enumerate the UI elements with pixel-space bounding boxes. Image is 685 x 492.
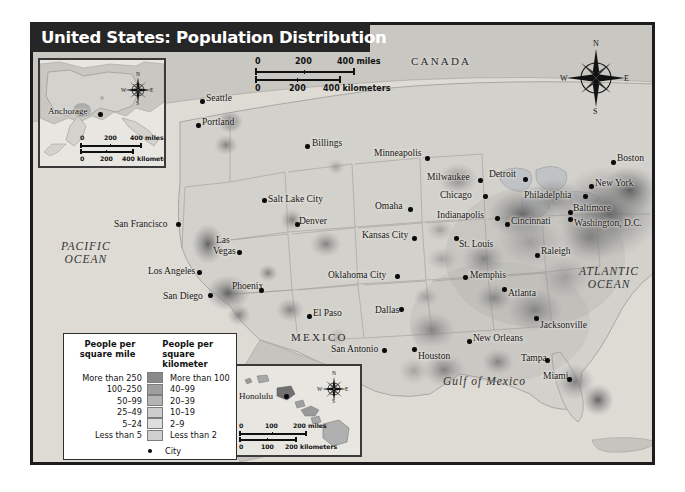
legend-km-value: 40–99 — [163, 384, 195, 394]
city-dot — [208, 293, 213, 298]
city-dot — [568, 217, 573, 222]
hawaii-compass-s: S — [332, 398, 335, 404]
city-label: Billings — [312, 138, 342, 148]
city-label: Los Angeles — [148, 266, 195, 276]
city-dot — [535, 253, 540, 258]
city-label: Detroit — [489, 169, 516, 179]
city-dot — [262, 198, 267, 203]
legend-row: 5–242–9 — [64, 418, 236, 430]
city-dot — [568, 210, 573, 215]
city-label: Indianapolis — [437, 210, 484, 220]
city-dot — [502, 287, 507, 292]
main-scale-bar: 0 200 400 miles 0 200 400 kilometers — [255, 57, 385, 95]
city-label: Oklahoma City — [328, 270, 386, 280]
city-dot — [197, 270, 202, 275]
city-dot-icon — [148, 449, 152, 453]
city-dot — [305, 144, 310, 149]
alaska-compass-rose: N E S W — [122, 74, 154, 106]
city-dot — [408, 207, 413, 212]
alaska-scale-km-line — [80, 149, 156, 154]
legend-km-value: 10–19 — [163, 407, 195, 417]
city-dot — [583, 194, 588, 199]
hawaii-compass-rose: N E S W — [319, 374, 349, 404]
city-dot — [200, 99, 205, 104]
city-dot — [534, 316, 539, 321]
city-dot — [295, 222, 300, 227]
atlantic-line1: ATLANTIC — [579, 265, 639, 278]
compass-north-label: N — [593, 39, 599, 48]
city-label: Philadelphia — [524, 190, 572, 200]
ocean-label-atlantic: ATLANTIC OCEAN — [579, 265, 639, 291]
city-dot — [505, 222, 510, 227]
city-label: Raleigh — [541, 246, 571, 256]
region-label-canada: CANADA — [411, 55, 471, 67]
scale-km-numbers: 0 200 400 kilometers — [255, 84, 385, 95]
map-title-bar: United States: Population Distribution — [30, 22, 370, 52]
city-label: Washington, D.C. — [574, 218, 642, 228]
city-label: Baltimore — [573, 203, 611, 213]
alaska-scale-km-numbers: 0 200 400 kilometers — [80, 155, 166, 164]
hawaii-inset: Honolulu N E S — [231, 364, 362, 457]
city-dot — [495, 216, 500, 221]
city-label: Houston — [418, 351, 450, 361]
map-legend: People per square mile People per square… — [63, 333, 237, 460]
pacific-line1: PACIFIC — [61, 240, 111, 253]
legend-city-row: City — [64, 446, 236, 456]
legend-km-value: 2–9 — [163, 419, 185, 429]
city-label: San Diego — [163, 291, 203, 301]
hawaii-city-label-honolulu: Honolulu — [239, 391, 273, 401]
pacific-line2: OCEAN — [61, 253, 111, 266]
legend-mile-value: 50–99 — [64, 396, 147, 406]
hawaii-compass-n: N — [332, 370, 336, 376]
legend-color-swatch — [147, 372, 163, 383]
city-dot — [196, 123, 201, 128]
alaska-compass-e: E — [150, 87, 153, 93]
hawaii-scale-km-numbers: 0 100 200 kilometers — [239, 443, 335, 452]
legend-color-swatch — [147, 418, 163, 429]
city-label: Omaha — [375, 201, 402, 211]
city-dot — [395, 274, 400, 279]
legend-header-km-line1: People per — [162, 339, 236, 349]
legend-headers: People per square mile People per square… — [64, 334, 236, 369]
legend-row: More than 250More than 100 — [64, 372, 236, 384]
city-dot — [176, 222, 181, 227]
city-label: New York — [595, 178, 634, 188]
city-dot — [463, 275, 468, 280]
alaska-compass-n: N — [136, 71, 140, 77]
alaska-city-dot-anchorage — [98, 112, 103, 117]
city-dot — [382, 348, 387, 353]
legend-row: 50–9920–39 — [64, 395, 236, 407]
city-label: Memphis — [470, 270, 506, 280]
scale-miles-line — [255, 68, 367, 75]
city-label: Miami — [543, 371, 568, 381]
ocean-label-pacific: PACIFIC OCEAN — [61, 240, 111, 266]
legend-row: 100–25040–99 — [64, 384, 236, 396]
city-dot — [454, 236, 459, 241]
city-dot — [478, 178, 483, 183]
hawaii-compass-w: W — [317, 386, 322, 392]
city-label: Atlanta — [508, 288, 536, 298]
city-dot — [399, 307, 404, 312]
city-label: Milwaukee — [427, 172, 470, 182]
legend-header-km-line2: square kilometer — [162, 349, 236, 369]
compass-rose: N E S W — [561, 43, 631, 113]
alaska-scale-miles-numbers: 0 200 400 miles — [80, 134, 156, 143]
legend-header-mile: People per square mile — [64, 339, 139, 369]
legend-color-swatch — [147, 430, 163, 441]
city-label: Portland — [202, 117, 234, 127]
hawaii-scale-km-line — [239, 437, 325, 442]
page-title: United States: Population Distribution — [30, 28, 386, 47]
city-label: Boston — [617, 153, 644, 163]
compass-west-label: W — [560, 74, 568, 83]
legend-color-swatch — [147, 407, 163, 418]
alaska-city-label-anchorage: Anchorage — [48, 106, 87, 116]
city-label: Salt Lake City — [268, 194, 323, 204]
city-dot — [611, 160, 616, 165]
city-label: Minneapolis — [374, 148, 422, 158]
legend-km-value: 20–39 — [163, 396, 195, 406]
legend-rows: More than 250More than 100100–25040–9950… — [64, 372, 236, 441]
hawaii-scale-bar: 0 100 200 miles 0 100 200 kilometers — [239, 422, 335, 452]
alaska-scale-bar: 0 200 400 miles 0 200 400 kilometers — [80, 134, 166, 164]
city-label: Dallas — [375, 305, 399, 315]
city-label: Seattle — [206, 93, 232, 103]
